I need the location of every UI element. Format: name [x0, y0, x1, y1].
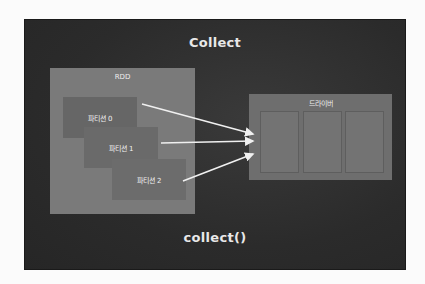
driver-slot-1	[303, 111, 342, 173]
rdd-label: RDD	[50, 73, 195, 81]
driver-label: 드라이버	[249, 98, 392, 108]
driver-slot-2	[345, 111, 384, 173]
diagram-title: Collect	[25, 35, 405, 50]
diagram-canvas: Collect RDD 파티션 0 파티션 1 파티션 2 드라이버 colle…	[24, 19, 406, 270]
driver-slot-0	[260, 111, 299, 173]
partition-2-label: 파티션 2	[137, 175, 162, 185]
rdd-box: RDD 파티션 0 파티션 1 파티션 2	[50, 68, 195, 214]
partition-1-label: 파티션 1	[109, 143, 134, 153]
partition-2-box: 파티션 2	[112, 159, 186, 200]
diagram-footer: collect()	[25, 230, 405, 245]
driver-box: 드라이버	[249, 94, 392, 180]
partition-0-label: 파티션 0	[88, 113, 113, 123]
